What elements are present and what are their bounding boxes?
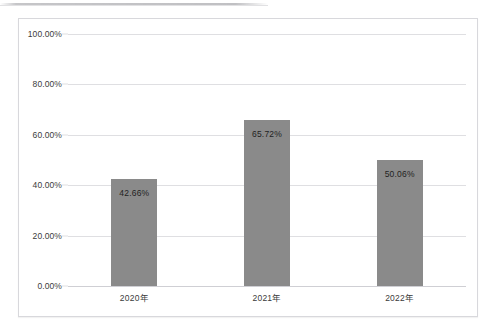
- x-axis-label-2021年: 2021年: [253, 291, 282, 303]
- y-axis-tick-label: 0.00%: [37, 281, 62, 291]
- bars-group: 42.66%65.72%50.06%: [68, 34, 466, 286]
- bar-data-label: 50.06%: [385, 169, 415, 179]
- chart-frame: 0.00%20.00%40.00%60.00%80.00%100.00% 42.…: [18, 18, 478, 317]
- bar-2021年[interactable]: 65.72%: [244, 120, 290, 286]
- gridline-000: [68, 286, 466, 287]
- bar-2020年[interactable]: 42.66%: [111, 179, 157, 287]
- scan-artifact-line-secondary: [0, 5, 268, 6]
- x-axis-label-2022年: 2022年: [385, 291, 414, 303]
- y-axis-tick-label: 60.00%: [33, 130, 62, 140]
- y-axis-tick-label: 80.00%: [33, 79, 62, 89]
- bar-data-label: 65.72%: [252, 129, 282, 139]
- bar-2022年[interactable]: 50.06%: [377, 160, 423, 286]
- y-axis-tick-label: 20.00%: [33, 231, 62, 241]
- x-axis-label-2020年: 2020年: [120, 291, 149, 303]
- x-axis-labels: 2020年2021年2022年: [68, 291, 466, 313]
- y-axis-tick-label: 100.00%: [28, 29, 62, 39]
- bar-data-label: 42.66%: [119, 188, 149, 198]
- plot-area: 0.00%20.00%40.00%60.00%80.00%100.00% 42.…: [68, 34, 466, 286]
- y-axis-tick-label: 40.00%: [33, 180, 62, 190]
